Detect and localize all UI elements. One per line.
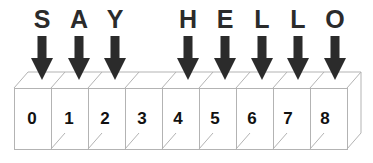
cell-index-0: 0 <box>27 109 36 128</box>
letter-L-slot-7: L <box>290 5 305 33</box>
cell-index-5: 5 <box>210 109 219 128</box>
letter-H-slot-4: H <box>179 5 197 33</box>
letter-E-slot-5: E <box>217 5 234 33</box>
letter-S-slot-0: S <box>34 5 51 33</box>
letter-Y-slot-2: Y <box>107 5 124 33</box>
cell-index-3: 3 <box>137 109 146 128</box>
array-diagram-canvas: 012345678 SAYHELLO <box>0 0 373 163</box>
array-diagram-svg: 012345678 SAYHELLO <box>0 0 373 163</box>
cell-index-1: 1 <box>64 109 73 128</box>
cell-index-labels: 012345678 <box>27 109 329 128</box>
letter-L-slot-6: L <box>254 5 269 33</box>
cell-index-7: 7 <box>283 109 292 128</box>
cell-index-6: 6 <box>247 109 256 128</box>
arrows <box>31 36 346 80</box>
cell-index-4: 4 <box>173 109 183 128</box>
letter-A-slot-1: A <box>70 5 88 33</box>
letter-labels: SAYHELLO <box>34 5 345 33</box>
cell-index-8: 8 <box>320 109 329 128</box>
cell-index-2: 2 <box>100 109 109 128</box>
letter-O-slot-8: O <box>325 5 344 33</box>
